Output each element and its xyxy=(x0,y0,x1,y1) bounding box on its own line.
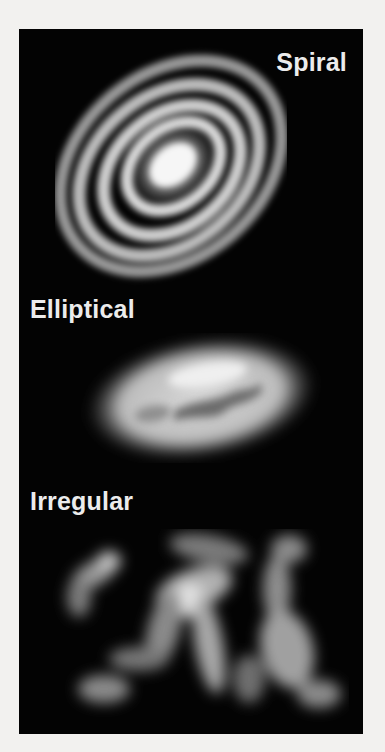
galaxy-types-figure: Spiral Elliptical Irregular xyxy=(19,29,363,734)
spiral-label: Spiral xyxy=(276,48,347,77)
irregular-galaxy-image xyxy=(49,529,349,729)
elliptical-label: Elliptical xyxy=(30,295,135,324)
elliptical-galaxy-image xyxy=(81,333,321,463)
irregular-label: Irregular xyxy=(30,487,133,516)
spiral-galaxy-image xyxy=(55,41,287,291)
